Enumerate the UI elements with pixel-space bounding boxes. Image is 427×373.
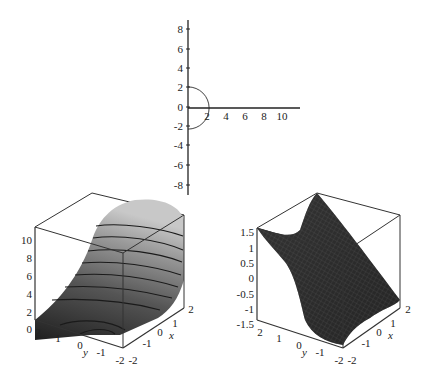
x-tick-label: -2 [347, 354, 356, 366]
z-tick-label: 6 [27, 270, 33, 282]
y-tick-label: 2 [257, 326, 263, 338]
y-tick-label: -1 [315, 346, 324, 358]
y-tick-label: -2 [174, 120, 183, 132]
z-tick-label: -1 [245, 303, 254, 315]
y-tick-label: -2 [334, 354, 343, 366]
y-tick-label: 1 [55, 332, 61, 344]
x-tick-label: 0 [376, 326, 382, 338]
z-tick-label: 0 [27, 323, 33, 335]
y-tick-label: 0 [178, 101, 184, 113]
x-axis-label: x [168, 329, 174, 341]
z-tick-label: 10 [21, 234, 33, 246]
y-tick-label: -6 [174, 159, 184, 171]
x-tick-label: -2 [128, 354, 137, 366]
figure-canvas: 86420-2-4-6-8 246810 1086420210-1-2-2-10… [0, 0, 427, 373]
z-tick-label: 0.5 [240, 257, 254, 269]
x-tick-label: 2 [405, 303, 411, 315]
x-tick-label: 6 [242, 110, 248, 122]
x-tick-label: 2 [188, 303, 194, 315]
z-tick-label: -1.5 [237, 318, 255, 330]
x-tick-label: 0 [157, 326, 163, 338]
y-tick-label: 2 [35, 326, 41, 338]
y-tick-label: 2 [178, 81, 184, 93]
z-tick-label: 0 [249, 272, 255, 284]
y-tick-label: -4 [174, 139, 184, 151]
plot-conformal-grid: 86420-2-4-6-8 246810 [174, 20, 300, 195]
x-tick-label: 10 [277, 110, 289, 122]
y-tick-label: -2 [115, 354, 124, 366]
z-tick-label: 2 [27, 306, 33, 318]
x-tick-label: -1 [361, 337, 370, 349]
y-tick-label: -1 [96, 346, 105, 358]
x-tick-label: -1 [142, 337, 151, 349]
x-tick-label: 2 [204, 110, 210, 122]
z-tick-label: 8 [27, 252, 33, 264]
y-axis-label: y [301, 346, 307, 358]
y-tick-label: -8 [174, 179, 184, 191]
y-tick-label: 6 [178, 43, 184, 55]
y-tick-label: 4 [178, 62, 184, 74]
z-tick-label: 1.5 [240, 226, 254, 238]
x-tick-label: 4 [223, 110, 229, 122]
y-axis-label: y [82, 346, 88, 358]
x-tick-label: 1 [390, 317, 396, 329]
z-tick-label: 1 [249, 242, 255, 254]
x-tick-label: 1 [172, 317, 178, 329]
plot-surface-contour: 1086420210-1-2-2-1012yx [21, 193, 194, 366]
z-tick-label: 4 [27, 288, 33, 300]
plot-surface-mesh: 1.510.50-0.5-1-1.5210-1-2-2-1012yx [237, 193, 411, 366]
x-tick-label: 8 [261, 110, 267, 122]
y-tick-label: 8 [178, 23, 184, 35]
x-tick-labels: 246810 [204, 110, 288, 122]
x-axis-label: x [387, 329, 393, 341]
y-tick-label: 1 [276, 332, 282, 344]
z-tick-label: -0.5 [237, 288, 255, 300]
